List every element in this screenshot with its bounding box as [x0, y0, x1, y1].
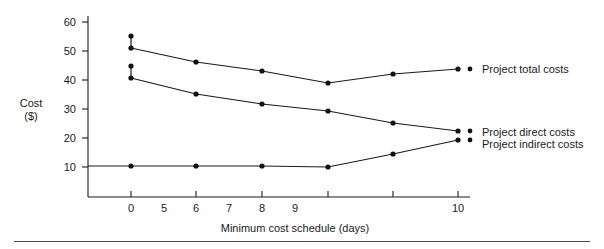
data-point	[259, 101, 264, 106]
legend-marker-indirect	[468, 138, 473, 143]
figure-container: 60 50 40 30 20 10 0 5 6 7 8 9 10 Cost ($…	[0, 0, 604, 249]
y-axis-title-line2: ($)	[8, 110, 54, 123]
data-point	[128, 45, 133, 50]
legend-marker-direct	[468, 129, 473, 134]
y-tick-marks	[82, 22, 88, 167]
xtick-label-0: 0	[118, 203, 144, 214]
series-indirect-costs-markers	[128, 137, 460, 169]
plot-area: 60 50 40 30 20 10 0 5 6 7 8 9 10 Cost ($…	[0, 0, 604, 249]
direct-costs-line	[131, 78, 458, 131]
series-total-costs	[131, 36, 458, 83]
data-point	[455, 128, 460, 133]
ytick-label-20: 20	[50, 133, 76, 144]
xtick-label-9: 9	[282, 203, 308, 214]
y-axis-title-line1: Cost	[8, 97, 54, 110]
axis-lines	[88, 16, 470, 197]
x-tick-marks	[131, 191, 458, 197]
data-point	[325, 108, 330, 113]
y-axis-title: Cost ($)	[8, 97, 54, 123]
series-total-costs-markers	[128, 33, 460, 85]
xtick-label-6: 6	[183, 203, 209, 214]
legend-marker-total	[468, 67, 473, 72]
data-point	[128, 33, 133, 38]
series-indirect-costs	[88, 140, 458, 167]
xtick-label-5: 5	[151, 203, 177, 214]
data-point	[325, 80, 330, 85]
xtick-label-10: 10	[445, 203, 471, 214]
ytick-label-40: 40	[50, 75, 76, 86]
series-direct-costs	[131, 66, 458, 131]
data-point	[128, 163, 133, 168]
ytick-label-60: 60	[50, 17, 76, 28]
data-point	[128, 63, 133, 68]
x-axis-title: Minimum cost schedule (days)	[170, 222, 420, 234]
legend-leader-markers	[468, 67, 473, 143]
data-point	[325, 164, 330, 169]
xtick-label-8: 8	[249, 203, 275, 214]
data-point	[390, 71, 395, 76]
indirect-costs-line	[88, 140, 458, 167]
total-costs-line	[131, 48, 458, 83]
series-label-direct-costs: Project direct costs	[482, 126, 575, 138]
series-label-indirect-costs: Project indirect costs	[482, 138, 583, 150]
data-point	[193, 91, 198, 96]
data-point	[193, 59, 198, 64]
ytick-label-50: 50	[50, 46, 76, 57]
xtick-label-7: 7	[216, 203, 242, 214]
data-point	[259, 68, 264, 73]
series-direct-costs-markers	[128, 63, 460, 133]
series-label-total-costs: Project total costs	[482, 63, 569, 75]
data-point	[128, 75, 133, 80]
data-point	[455, 137, 460, 142]
bottom-divider	[14, 241, 590, 242]
ytick-label-10: 10	[50, 162, 76, 173]
data-point	[390, 120, 395, 125]
data-point	[390, 151, 395, 156]
data-point	[455, 66, 460, 71]
data-point	[259, 163, 264, 168]
data-point	[193, 163, 198, 168]
